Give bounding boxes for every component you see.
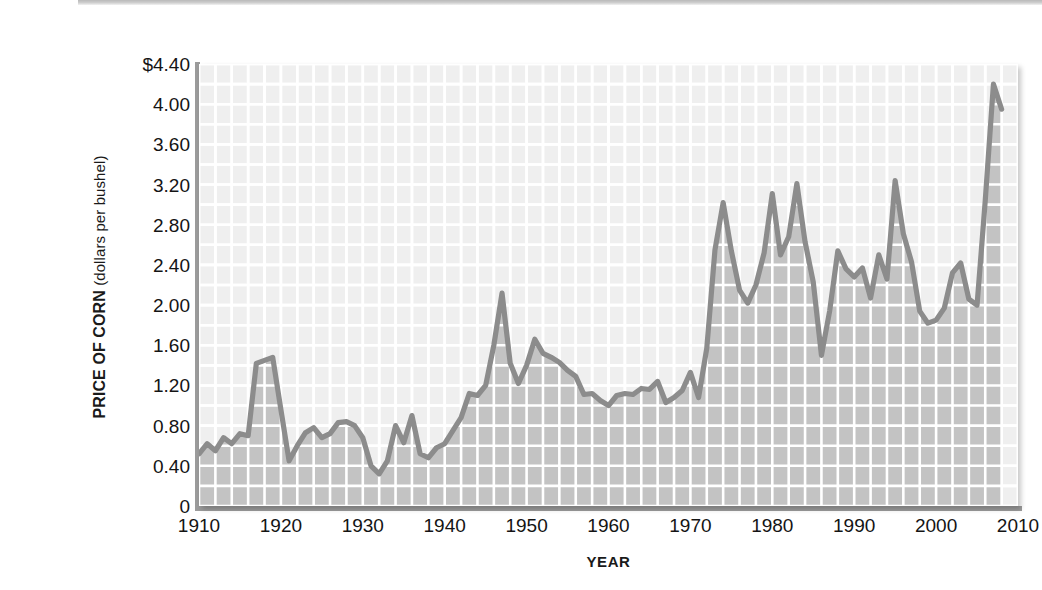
x-axis-tick-label: 1930 <box>318 515 408 537</box>
y-axis-tick-label: 1.20 <box>118 376 190 395</box>
y-axis-tick-label: 2.00 <box>118 296 190 315</box>
page-edge-artifact <box>78 0 1042 5</box>
x-axis-tick-label: 2000 <box>891 515 981 537</box>
plot-area <box>199 64 1018 506</box>
y-axis-title: PRICE OF CORN (dollars per bushel) <box>91 77 109 497</box>
x-axis-title: YEAR <box>199 553 1018 570</box>
x-axis-tick-label: 2010 <box>973 515 1042 537</box>
x-axis-tick-label: 1960 <box>564 515 654 537</box>
x-axis-tick-label: 1990 <box>809 515 899 537</box>
x-axis-spine <box>195 506 1022 511</box>
x-axis-tick-label: 1910 <box>154 515 244 537</box>
y-axis-tick-label: $4.40 <box>118 55 190 74</box>
series-area-fill <box>199 84 1002 506</box>
x-axis-tick-label: 1970 <box>645 515 735 537</box>
y-axis-tick-label: 1.60 <box>118 336 190 355</box>
y-axis-tick-label: 3.60 <box>118 135 190 154</box>
x-axis-tick-labels: 1910192019301940195019601970198019902000… <box>40 515 1042 545</box>
y-axis-title-light: (dollars per bushel) <box>91 155 108 290</box>
y-axis-tick-labels: $4.404.003.603.202.802.402.001.601.200.8… <box>116 16 190 590</box>
y-axis-tick-label: 2.80 <box>118 216 190 235</box>
y-axis-tick-label: 4.00 <box>118 95 190 114</box>
chart-svg <box>199 64 1018 506</box>
x-axis-tick-label: 1920 <box>236 515 326 537</box>
price-of-corn-chart: PRICE OF CORN (dollars per bushel) $4.40… <box>40 16 1042 590</box>
y-axis-tick-label: 0.40 <box>118 457 190 476</box>
x-axis-tick-label: 1950 <box>482 515 572 537</box>
y-axis-tick-label: 3.20 <box>118 176 190 195</box>
y-axis-title-strong: PRICE OF CORN <box>91 290 108 418</box>
y-axis-tick-label: 2.40 <box>118 256 190 275</box>
x-axis-tick-label: 1940 <box>400 515 490 537</box>
plot-inner <box>199 64 1018 506</box>
y-axis-tick-label: 0.80 <box>118 417 190 436</box>
x-axis-tick-label: 1980 <box>727 515 817 537</box>
y-axis-tick-label: 0 <box>118 497 190 516</box>
